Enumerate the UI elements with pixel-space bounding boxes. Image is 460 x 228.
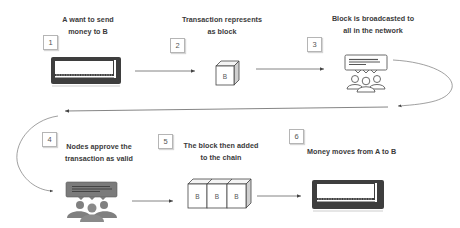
wallet-icon: [312, 180, 384, 212]
block-cube-icon: B: [216, 61, 239, 85]
step-5-label-line1: The block then added: [180, 140, 262, 152]
arrow-curve-left: [17, 116, 58, 191]
step-2-label-line1: Transaction represents: [177, 14, 267, 26]
step-2-label: Transaction represents as block: [177, 14, 267, 37]
blockchain-icon: B B B: [188, 179, 251, 208]
step-1-label: A want to send money to B: [48, 14, 128, 37]
step-5-label: The block then added to the chain: [180, 140, 262, 163]
svg-text:B: B: [215, 193, 219, 200]
step-4-label-line1: Nodes approve the: [62, 141, 136, 153]
step-3-label: Block is broadcasted to all in the netwo…: [328, 13, 418, 36]
svg-text:B: B: [195, 193, 199, 200]
step-number-2: 2: [170, 38, 185, 53]
step-5-label-line2: to the chain: [180, 152, 262, 164]
step-1-label-line2: money to B: [48, 26, 128, 38]
step-6-label: Money moves from A to B: [307, 146, 403, 158]
step-number-4: 4: [42, 132, 57, 147]
step-3-label-line1: Block is broadcasted to: [328, 13, 418, 25]
block-label: B: [223, 73, 227, 80]
step-number-6: 6: [289, 129, 304, 144]
step-number-5: 5: [158, 134, 173, 149]
arrow-curve-right: [393, 60, 452, 106]
step-3-label-line2: all in the network: [328, 25, 418, 37]
step-1-label-line1: A want to send: [48, 14, 128, 26]
step-4-label-line2: transaction as valid: [62, 153, 136, 165]
step-number-1: 1: [43, 35, 58, 50]
step-4-label: Nodes approve the transaction as valid: [62, 141, 136, 164]
step-number-3: 3: [307, 37, 322, 52]
svg-text:B: B: [234, 193, 238, 200]
step-2-label-line2: as block: [177, 26, 267, 38]
network-users-icon: [345, 55, 387, 92]
arrow-return-line: [65, 107, 388, 111]
wallet-icon: [51, 57, 121, 87]
step-6-label-line1: Money moves from A to B: [307, 146, 403, 158]
network-users-filled-icon: [66, 182, 117, 222]
